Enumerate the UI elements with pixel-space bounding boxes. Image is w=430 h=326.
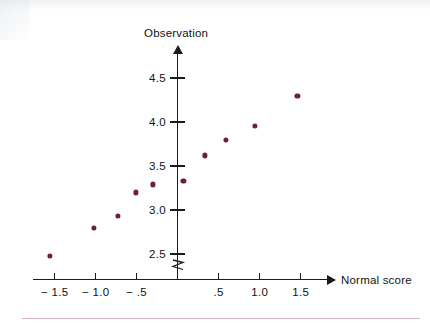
data-point <box>133 190 138 195</box>
data-point <box>202 153 207 158</box>
axis-break-icon <box>170 256 186 274</box>
y-tick-0 <box>170 77 185 78</box>
data-point <box>47 253 52 258</box>
y-tick-label-3: 3.0 <box>134 204 166 216</box>
data-point <box>151 182 156 187</box>
y-axis-label: Observation <box>144 27 208 39</box>
x-tick-label-1: − 1.0 <box>82 286 109 298</box>
y-tick-3 <box>170 209 185 210</box>
x-axis-label: Normal score <box>341 274 412 286</box>
data-point <box>252 123 257 128</box>
data-point <box>295 93 300 98</box>
y-tick-1 <box>170 121 185 122</box>
y-tick-4 <box>170 253 185 254</box>
x-tick-2 <box>136 273 137 280</box>
y-tick-label-1: 4.0 <box>134 116 166 128</box>
x-tick-5 <box>259 273 260 280</box>
scatter-plot: Observation Normal score − 1.5− 1.0− .5.… <box>0 0 430 326</box>
x-tick-label-6: 1.5 <box>292 286 309 298</box>
data-point <box>91 225 96 230</box>
x-tick-0 <box>54 273 55 280</box>
y-tick-label-4: 2.5 <box>134 248 166 260</box>
x-axis-arrow-icon <box>327 275 336 285</box>
data-point <box>115 214 120 219</box>
page-bottom-rule <box>22 318 420 319</box>
x-tick-1 <box>95 273 96 280</box>
y-tick-label-0: 4.5 <box>134 72 166 84</box>
data-point <box>181 178 186 183</box>
x-tick-label-5: 1.0 <box>251 286 268 298</box>
x-tick-label-2: − .5 <box>126 286 147 298</box>
y-axis-arrow-icon <box>173 45 183 54</box>
chart-page: Observation Normal score − 1.5− 1.0− .5.… <box>0 0 430 326</box>
y-tick-2 <box>170 165 185 166</box>
x-tick-6 <box>300 273 301 280</box>
data-point <box>223 137 228 142</box>
x-tick-label-4: .5 <box>214 286 224 298</box>
y-tick-label-2: 3.5 <box>134 160 166 172</box>
x-tick-label-0: − 1.5 <box>41 286 68 298</box>
x-tick-3 <box>177 273 178 280</box>
x-axis-line <box>33 279 329 280</box>
x-tick-4 <box>218 273 219 280</box>
